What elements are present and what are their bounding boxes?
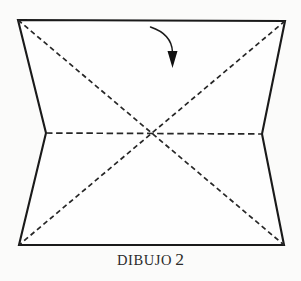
origami-diagram [0, 0, 301, 281]
figure-container: DIBUJO2 [0, 0, 301, 281]
caption-word: DIBUJO [117, 252, 172, 268]
figure-caption: DIBUJO2 [0, 251, 301, 269]
caption-number: 2 [175, 249, 184, 269]
